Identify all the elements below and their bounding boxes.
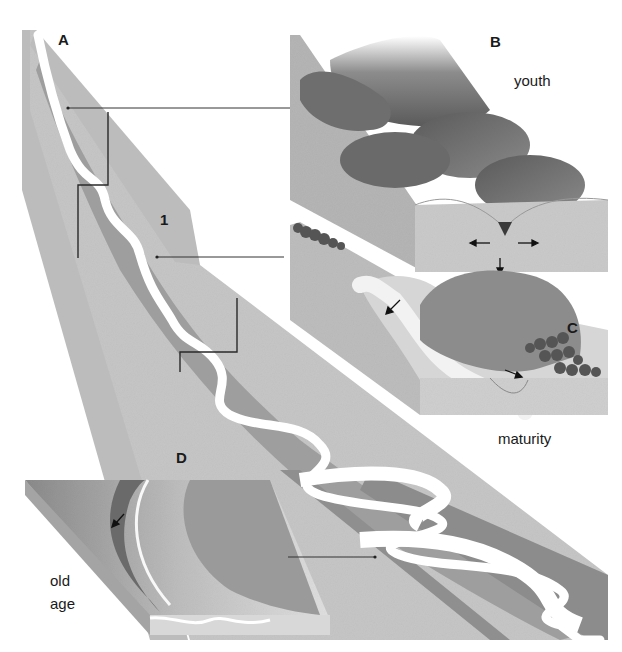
panel-d-label: D	[176, 449, 187, 466]
panel-c-label: C	[567, 319, 578, 336]
river-stages-diagram: A B youth 1 C maturity D old age	[0, 0, 622, 652]
diagram-illustration	[0, 0, 622, 652]
old-age-stage-label-line1: old	[50, 570, 70, 592]
panel-a-label: A	[58, 31, 69, 48]
maturity-stage-label: maturity	[498, 428, 551, 450]
old-age-stage-label-line2: age	[50, 593, 75, 615]
section-1-marker: 1	[160, 211, 168, 228]
panel-b-youth-block	[290, 35, 608, 274]
panel-b-label: B	[490, 33, 501, 50]
youth-stage-label: youth	[514, 70, 551, 92]
